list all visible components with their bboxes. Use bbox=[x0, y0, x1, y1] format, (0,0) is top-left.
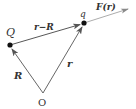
vector-r-arrow bbox=[43, 27, 82, 93]
vector-R-label: R bbox=[13, 70, 22, 81]
test-charge-label: q bbox=[80, 9, 86, 19]
origin-label: O bbox=[38, 97, 46, 108]
source-charge-label: Q bbox=[6, 26, 15, 39]
vector-r-label: r bbox=[67, 58, 73, 69]
test-charge-dot bbox=[81, 20, 86, 25]
vector-r-minus-R-label: r−R bbox=[34, 22, 54, 32]
source-charge-dot bbox=[7, 42, 12, 47]
force-label: F(r) bbox=[95, 2, 116, 12]
coulomb-vector-diagram: Q q O r−R R r F(r) bbox=[0, 0, 136, 109]
